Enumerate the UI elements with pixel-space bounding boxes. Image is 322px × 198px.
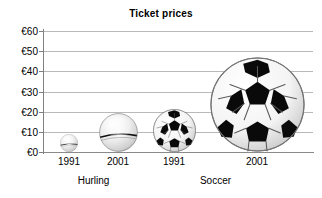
y-axis-tick-label: €60 bbox=[2, 26, 38, 37]
y-axis-tick bbox=[39, 92, 44, 93]
y-axis-tick bbox=[39, 152, 44, 153]
soccer-ball-marker bbox=[210, 57, 305, 152]
sliotar-ball-marker bbox=[60, 134, 78, 152]
gridline bbox=[44, 31, 313, 32]
y-axis-tick bbox=[39, 51, 44, 52]
x-axis-line bbox=[43, 152, 314, 153]
x-axis-tick-label: 1991 bbox=[163, 156, 185, 167]
y-axis-tick-label: €0 bbox=[2, 147, 38, 158]
y-axis-labels: €0€10€20€30€40€50€60 bbox=[0, 0, 38, 198]
y-axis-tick bbox=[39, 112, 44, 113]
y-axis-tick-label: €40 bbox=[2, 66, 38, 77]
y-axis-tick-label: €20 bbox=[2, 106, 38, 117]
soccer-ball-marker bbox=[153, 109, 196, 152]
x-axis-tick-label: 2001 bbox=[107, 156, 129, 167]
x-axis-tick-label: 2001 bbox=[246, 156, 268, 167]
x-axis-group-label: Hurling bbox=[78, 175, 110, 186]
y-axis-tick-label: €50 bbox=[2, 46, 38, 57]
y-axis-tick bbox=[39, 132, 44, 133]
x-axis-tick-label: 1991 bbox=[58, 156, 80, 167]
y-axis-tick bbox=[39, 31, 44, 32]
gridline bbox=[44, 51, 313, 52]
y-axis-tick-label: €30 bbox=[2, 86, 38, 97]
x-axis-group-label: Soccer bbox=[200, 175, 231, 186]
chart-title: Ticket prices bbox=[0, 8, 322, 19]
ticket-prices-chart: Ticket prices €0€10€20€30€40€50€60 1991 bbox=[0, 0, 322, 198]
y-axis-tick-label: €10 bbox=[2, 126, 38, 137]
y-axis-tick bbox=[39, 71, 44, 72]
sliotar-ball-marker bbox=[99, 113, 138, 152]
